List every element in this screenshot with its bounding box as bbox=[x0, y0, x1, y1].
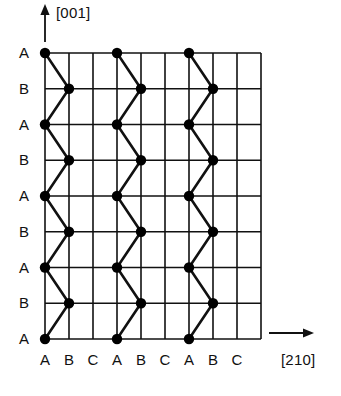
axis-arrows bbox=[40, 4, 314, 338]
lattice-node bbox=[64, 155, 74, 165]
arrow-right-icon bbox=[303, 328, 314, 337]
row-label-b-5: B bbox=[15, 223, 33, 240]
arrow-up-icon bbox=[40, 4, 49, 15]
lattice-node bbox=[64, 84, 74, 94]
col-label-c-8: C bbox=[228, 351, 246, 368]
lattice-node bbox=[184, 191, 194, 201]
grid-lines bbox=[45, 53, 261, 339]
lattice-node bbox=[184, 334, 194, 344]
row-label-a-8: A bbox=[15, 330, 33, 347]
col-label-a-3: A bbox=[108, 351, 126, 368]
lattice-diagram: [001] [210] ABABABABA ABCABCABC bbox=[0, 0, 341, 396]
axis-label-horizontal: [210] bbox=[281, 351, 315, 368]
lattice-node bbox=[184, 262, 194, 272]
col-label-b-4: B bbox=[132, 351, 150, 368]
lattice-node bbox=[208, 84, 218, 94]
col-label-b-7: B bbox=[204, 351, 222, 368]
row-label-b-7: B bbox=[15, 294, 33, 311]
lattice-node bbox=[136, 298, 146, 308]
diagram-canvas bbox=[0, 0, 341, 396]
lattice-node bbox=[112, 262, 122, 272]
lattice-node bbox=[40, 191, 50, 201]
lattice-node bbox=[136, 155, 146, 165]
row-label-a-0: A bbox=[15, 44, 33, 61]
lattice-node bbox=[184, 48, 194, 58]
row-label-a-2: A bbox=[15, 116, 33, 133]
lattice-node bbox=[184, 119, 194, 129]
row-label-b-1: B bbox=[15, 80, 33, 97]
lattice-node bbox=[40, 262, 50, 272]
lattice-node bbox=[112, 334, 122, 344]
lattice-node bbox=[112, 48, 122, 58]
col-label-c-5: C bbox=[156, 351, 174, 368]
lattice-node bbox=[40, 48, 50, 58]
lattice-node bbox=[40, 334, 50, 344]
col-label-c-2: C bbox=[84, 351, 102, 368]
row-label-b-3: B bbox=[15, 151, 33, 168]
lattice-node bbox=[208, 155, 218, 165]
lattice-node bbox=[64, 227, 74, 237]
lattice-node bbox=[136, 227, 146, 237]
axis-label-vertical: [001] bbox=[56, 4, 90, 21]
col-label-a-6: A bbox=[180, 351, 198, 368]
col-label-b-1: B bbox=[60, 351, 78, 368]
lattice-node bbox=[40, 119, 50, 129]
lattice-node bbox=[64, 298, 74, 308]
row-label-a-4: A bbox=[15, 187, 33, 204]
col-label-a-0: A bbox=[36, 351, 54, 368]
lattice-node bbox=[208, 227, 218, 237]
row-label-a-6: A bbox=[15, 259, 33, 276]
lattice-node bbox=[136, 84, 146, 94]
lattice-node bbox=[112, 119, 122, 129]
lattice-node bbox=[208, 298, 218, 308]
lattice-node bbox=[112, 191, 122, 201]
